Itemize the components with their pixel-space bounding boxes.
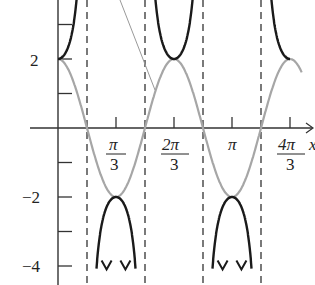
- svg-text:3: 3: [170, 155, 179, 174]
- x-axis-label: x: [308, 135, 315, 154]
- curves: [58, 0, 302, 269]
- svg-text:2π: 2π: [162, 135, 180, 154]
- x-label-2pi-over-3: 2π 3: [161, 135, 189, 174]
- svg-text:4π: 4π: [278, 135, 296, 154]
- y-label-minus-4: −4: [22, 257, 41, 276]
- svg-text:π: π: [109, 135, 118, 154]
- y-label-2: 2: [30, 51, 39, 70]
- y-ticks: [58, 25, 72, 267]
- svg-text:3: 3: [286, 155, 295, 174]
- x-label-pi: π: [228, 135, 237, 154]
- svg-text:3: 3: [110, 155, 119, 174]
- chart: 2 −2 −4 π 3 2π 3 π 4π 3 x: [0, 0, 315, 285]
- leader-line: [120, 0, 155, 90]
- x-label-pi-over-3: π 3: [106, 135, 126, 174]
- y-label-minus-2: −2: [22, 188, 40, 207]
- plot-area: 2 −2 −4 π 3 2π 3 π 4π 3 x: [0, 0, 315, 285]
- x-label-4pi-over-3: 4π 3: [277, 135, 305, 174]
